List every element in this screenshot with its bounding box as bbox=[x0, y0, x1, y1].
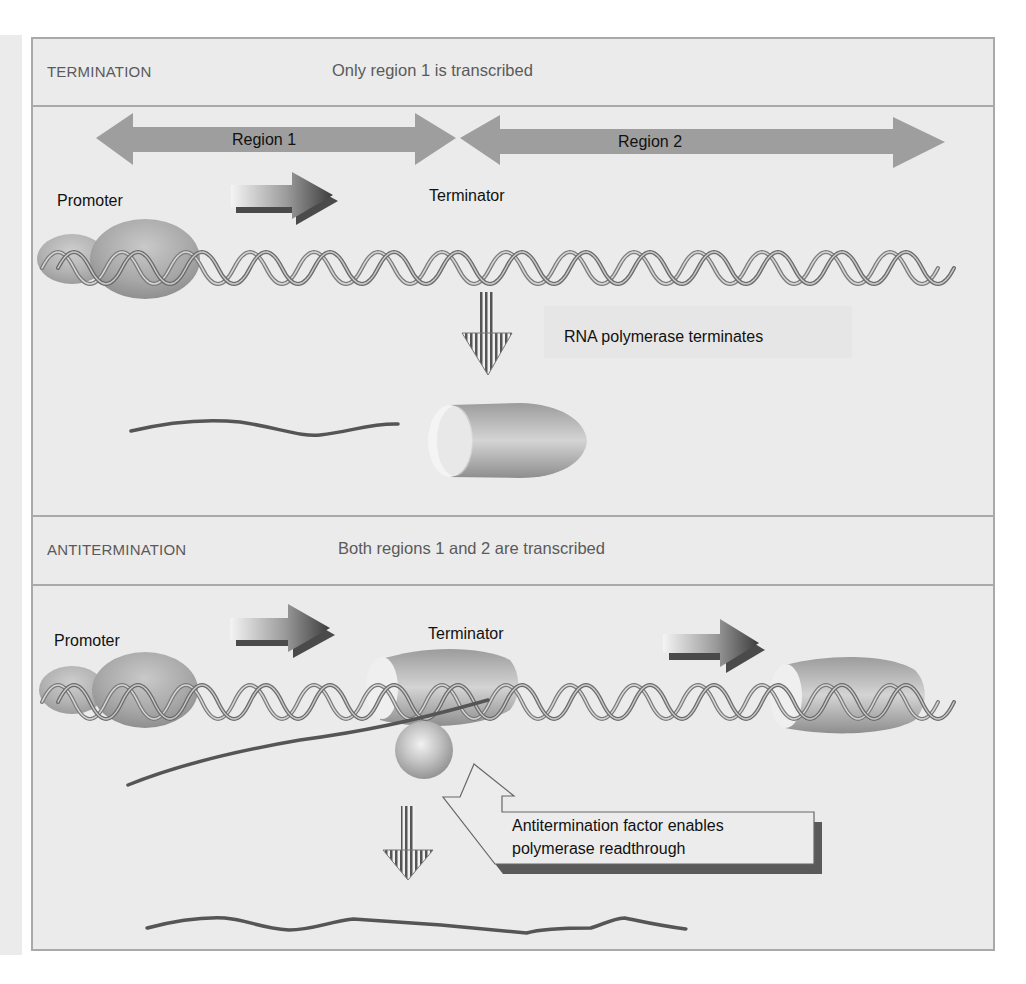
terminates-label: RNA polymerase terminates bbox=[564, 328, 763, 346]
region1-label: Region 1 bbox=[232, 131, 296, 149]
termination-header: TERMINATION Only region 1 is transcribed bbox=[33, 39, 993, 107]
antitermination-subtitle: Both regions 1 and 2 are transcribed bbox=[338, 539, 605, 558]
callout-line-1: Antitermination factor enables bbox=[512, 814, 724, 837]
page-margin-strip bbox=[0, 35, 22, 955]
terminator-label: Terminator bbox=[428, 625, 504, 643]
callout-text: Antitermination factor enables polymeras… bbox=[512, 814, 724, 860]
callout-line-2: polymerase readthrough bbox=[512, 837, 724, 860]
antitermination-header: ANTITERMINATION Both regions 1 and 2 are… bbox=[33, 515, 993, 586]
promoter-label: Promoter bbox=[54, 632, 120, 650]
region2-label: Region 2 bbox=[618, 133, 682, 151]
termination-title: TERMINATION bbox=[47, 63, 151, 80]
antitermination-title: ANTITERMINATION bbox=[47, 541, 186, 558]
terminator-label: Terminator bbox=[429, 187, 505, 205]
termination-subtitle: Only region 1 is transcribed bbox=[332, 61, 533, 80]
promoter-label: Promoter bbox=[57, 192, 123, 210]
